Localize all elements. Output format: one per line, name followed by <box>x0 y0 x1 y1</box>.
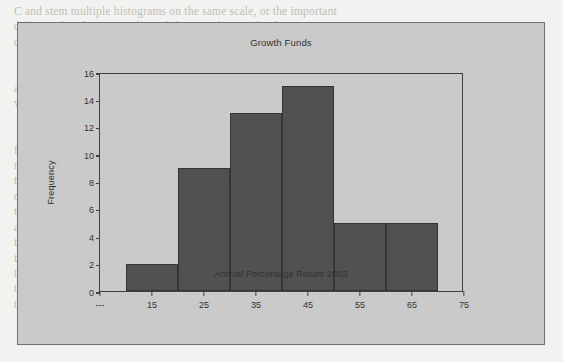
y-tick-mark <box>96 238 100 239</box>
y-tick-mark <box>96 73 100 74</box>
x-tick-label: 45 <box>303 299 313 311</box>
y-tick-label: 2 <box>89 259 94 272</box>
y-axis-label: Frequency <box>46 73 60 292</box>
x-tick-label: 75 <box>459 299 469 311</box>
x-tick-mark <box>411 291 412 296</box>
x-tick-label: 25 <box>199 299 209 311</box>
y-tick-label: 8 <box>89 177 94 190</box>
x-tick-label: 35 <box>251 299 261 311</box>
x-tick-mark <box>99 291 100 296</box>
x-tick-mark <box>463 291 464 296</box>
x-tick-mark <box>203 291 204 296</box>
x-tick-label: 55 <box>355 299 365 311</box>
x-tick-label: 15 <box>147 299 157 311</box>
histogram-bar <box>126 264 178 291</box>
y-tick-mark <box>96 183 100 184</box>
chart-title: Growth Funds <box>18 37 544 48</box>
y-tick-label: 0 <box>89 287 94 300</box>
histogram-bar <box>282 86 334 291</box>
x-tick-mark <box>151 291 152 296</box>
y-tick-mark <box>96 128 100 129</box>
y-tick-mark <box>96 265 100 266</box>
y-tick-label: 6 <box>89 204 94 217</box>
x-tick-mark <box>359 291 360 296</box>
chart-page: C and stem multiple histograms on the sa… <box>0 0 563 362</box>
y-tick-label: 10 <box>84 150 94 163</box>
y-tick-label: 12 <box>84 122 94 135</box>
y-tick-mark <box>96 155 100 156</box>
y-tick-label: 16 <box>84 68 94 81</box>
histogram-bar <box>178 168 230 291</box>
x-tick-mark <box>307 291 308 296</box>
x-tick-label: 65 <box>407 299 417 311</box>
y-tick-label: 4 <box>89 232 94 245</box>
histogram-bar <box>386 223 438 291</box>
x-tick-mark <box>255 291 256 296</box>
figure-panel: Growth Funds Frequency 0246810121416 ---… <box>17 22 545 345</box>
y-tick-mark <box>96 210 100 211</box>
histogram-bar <box>334 223 386 291</box>
histogram-bar <box>230 113 282 291</box>
plot-area: 0246810121416 ---15253545556575 <box>99 73 463 292</box>
y-tick-label: 14 <box>84 95 94 108</box>
y-tick-mark <box>96 101 100 102</box>
x-tick-label: --- <box>96 299 105 311</box>
